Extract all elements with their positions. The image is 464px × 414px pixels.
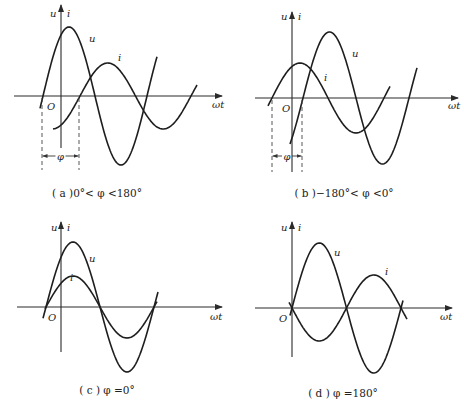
curve-label-u: u	[89, 253, 95, 264]
x-axis-label: ωt	[448, 100, 461, 111]
phase-angle-label: φ	[283, 151, 290, 162]
phase-angle-label: φ	[57, 151, 64, 162]
y-axis-label-u: u	[281, 222, 287, 233]
panel-caption: ( a )0°< φ <180°	[52, 187, 142, 199]
panel-b: φ u i O ωt u i ( b )−180°< φ <0°	[255, 11, 461, 199]
origin-label: O	[282, 103, 290, 114]
curve-label-i: i	[385, 266, 388, 277]
origin-label: O	[279, 313, 287, 324]
y-axis-label-u: u	[281, 11, 287, 22]
panel-d: u i O ωt u i ( d ) φ =180°	[255, 222, 453, 399]
y-axis-label-i: i	[67, 8, 70, 19]
curve-label-u: u	[334, 247, 340, 258]
y-axis-label-i: i	[298, 11, 301, 22]
panel-caption: ( d ) φ =180°	[308, 387, 378, 399]
origin-label: O	[47, 101, 55, 112]
y-axis-label-i: i	[67, 222, 70, 233]
panel-caption: ( c ) φ =0°	[79, 384, 135, 396]
y-axis-label-i: i	[298, 222, 301, 233]
y-axis-label-u: u	[51, 222, 57, 233]
curve-label-i: i	[324, 72, 327, 83]
y-axis-label-u: u	[50, 8, 56, 19]
panel-caption: ( b )−180°< φ <0°	[294, 187, 393, 199]
x-axis-label: ωt	[212, 99, 225, 110]
x-axis-label: ωt	[210, 311, 223, 322]
curve-label-u: u	[352, 48, 358, 59]
sinusoid-phase-figure: φ u i O ωt u i ( a )0°< φ <180° φ u i O …	[0, 0, 464, 414]
curve-label-u: u	[89, 33, 95, 44]
origin-label: O	[48, 312, 56, 323]
curve-label-i: i	[70, 272, 73, 283]
panel-c: u i O ωt u i ( c ) φ =0°	[17, 222, 223, 396]
panel-a: φ u i O ωt u i ( a )0°< φ <180°	[14, 5, 225, 199]
curve-label-i: i	[118, 52, 121, 63]
x-axis-label: ωt	[440, 311, 453, 322]
